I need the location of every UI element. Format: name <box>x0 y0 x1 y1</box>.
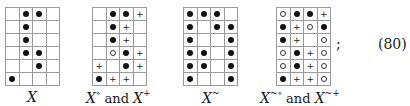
grid-row: + <box>93 47 147 60</box>
plus-icon: + <box>122 75 130 84</box>
filled-dot-icon <box>228 76 234 82</box>
grid-cell <box>33 34 47 47</box>
filled-dot-icon <box>123 11 129 17</box>
grid-cell: + <box>304 47 318 60</box>
open-circle-icon <box>280 11 286 17</box>
grid-cell <box>106 21 120 34</box>
grid-cell <box>133 73 147 86</box>
grid-cell <box>120 60 134 73</box>
grid-cell: + <box>120 21 134 34</box>
grid-cell <box>6 34 20 47</box>
filled-dot-icon <box>23 37 29 43</box>
filled-dot-icon <box>228 50 234 56</box>
filled-dot-icon <box>214 24 220 30</box>
grid-cell <box>133 21 147 34</box>
grid-cell <box>184 21 198 34</box>
grid-cell <box>211 8 225 21</box>
plus-icon: + <box>136 62 144 71</box>
grid-cell <box>133 34 147 47</box>
grid-cell <box>93 47 107 60</box>
grid-row <box>6 21 60 34</box>
plus-icon: + <box>136 10 144 19</box>
grid-cell <box>277 73 291 86</box>
grid-row: + <box>277 34 331 47</box>
filled-dot-icon <box>228 37 234 43</box>
figure-x-tilde <box>183 7 238 86</box>
grid-cell <box>106 34 120 47</box>
filled-dot-icon <box>201 50 207 56</box>
grid-cell <box>33 60 47 73</box>
grid-cell <box>19 8 33 21</box>
plus-icon: + <box>95 62 103 71</box>
filled-dot-icon <box>36 50 42 56</box>
filled-dot-icon <box>307 11 313 17</box>
filled-dot-icon <box>321 24 327 30</box>
filled-dot-icon <box>123 50 129 56</box>
grid-row: + <box>277 8 331 21</box>
grid-cell <box>304 8 318 21</box>
grid-cell <box>33 21 47 34</box>
grid-row: ++ <box>93 73 147 86</box>
open-circle-icon <box>321 50 327 56</box>
grid-row <box>6 60 60 73</box>
grid-cell: + <box>290 73 304 86</box>
grid-cell: + <box>133 8 147 21</box>
grid-x-tilde <box>183 7 238 86</box>
filled-dot-icon <box>110 11 116 17</box>
grid-cell <box>304 34 318 47</box>
grid-cell <box>33 8 47 21</box>
grid-cell <box>184 34 198 47</box>
grid-cell <box>224 34 238 47</box>
filled-dot-icon <box>187 37 193 43</box>
grid-row: + <box>93 21 147 34</box>
grid-cell <box>46 8 60 21</box>
grid-cell <box>211 60 225 73</box>
grid-cell <box>46 47 60 60</box>
grid-row <box>6 73 60 86</box>
grid-cell <box>290 60 304 73</box>
grid-row <box>184 34 238 47</box>
grid-cell <box>106 8 120 21</box>
filled-dot-icon <box>23 50 29 56</box>
filled-dot-icon <box>214 11 220 17</box>
grid-cell: + <box>120 73 134 86</box>
filled-dot-icon <box>187 63 193 69</box>
filled-dot-icon <box>187 50 193 56</box>
grid-row <box>6 34 60 47</box>
grid-x <box>5 7 60 86</box>
grid-cell <box>19 34 33 47</box>
plus-icon: + <box>293 23 301 32</box>
grid-cell <box>19 60 33 73</box>
grid-cell: + <box>304 73 318 86</box>
figure-x <box>5 7 60 86</box>
grid-row: + <box>277 21 331 34</box>
grid-cell: + <box>304 60 318 73</box>
grid-cell <box>6 73 20 86</box>
plus-icon: + <box>320 10 328 19</box>
grid-cell <box>46 21 60 34</box>
grid-cell <box>6 8 20 21</box>
filled-dot-icon <box>201 11 207 17</box>
grid-cell <box>106 60 120 73</box>
grid-cell <box>93 73 107 86</box>
grid-cell <box>19 47 33 60</box>
grid-row <box>184 60 238 73</box>
plus-icon: + <box>293 75 301 84</box>
filled-dot-icon <box>123 63 129 69</box>
grid-cell <box>6 47 20 60</box>
grid-cell <box>6 60 20 73</box>
grid-row <box>184 73 238 86</box>
filled-dot-icon <box>294 50 300 56</box>
open-circle-icon <box>110 50 116 56</box>
grid-cell <box>277 21 291 34</box>
plus-icon: + <box>109 75 117 84</box>
grid-cell <box>224 73 238 86</box>
grid-cell <box>304 21 318 34</box>
grid-cell <box>277 47 291 60</box>
grid-cell <box>120 8 134 21</box>
grid-cell <box>184 73 198 86</box>
filled-dot-icon <box>110 24 116 30</box>
grid-cell <box>93 34 107 47</box>
grid-cell <box>120 47 134 60</box>
filled-dot-icon <box>201 63 207 69</box>
